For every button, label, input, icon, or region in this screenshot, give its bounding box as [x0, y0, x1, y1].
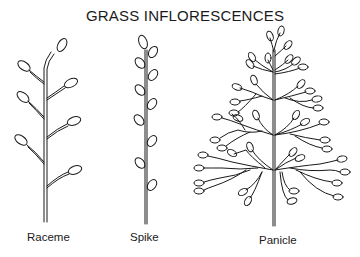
spike-drawing: [132, 34, 160, 224]
label-spike: Spike: [130, 231, 159, 243]
label-raceme: Raceme: [27, 231, 70, 243]
inflorescence-drawings: [0, 0, 360, 257]
label-panicle: Panicle: [259, 234, 297, 246]
raceme-drawing: [13, 37, 83, 222]
panicle-drawing: [194, 25, 350, 226]
